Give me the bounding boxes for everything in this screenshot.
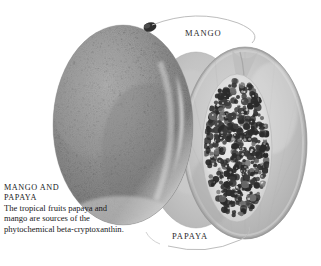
callout-label-papaya: PAPAYA: [172, 231, 208, 241]
caption-title-line-2: PAPAYA: [4, 193, 130, 203]
caption-body: The tropical fruits papaya and mango are…: [4, 203, 130, 234]
caption-title-line-1: MANGO AND: [4, 183, 130, 193]
figure-caption: MANGO AND PAPAYA The tropical fruits pap…: [4, 183, 130, 234]
callout-label-mango: MANGO: [185, 28, 222, 38]
